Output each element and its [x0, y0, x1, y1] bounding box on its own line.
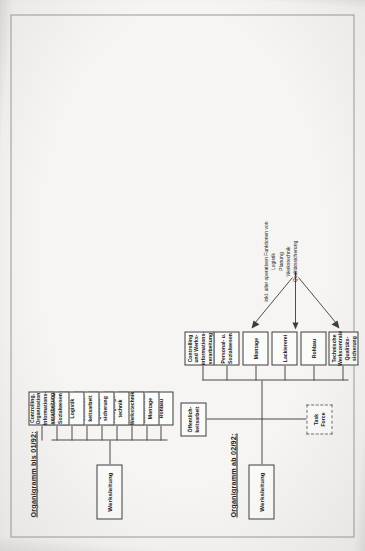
connector-root-chart1 [109, 440, 110, 464]
connector-staff-oeffentlichkeit-chart2 [206, 418, 262, 419]
connector-branch-chart1-5 [101, 425, 102, 440]
connector-branch-chart2-1 [342, 365, 343, 380]
connector-branch-chart1-7 [71, 425, 72, 440]
connector-branch-chart2-2 [313, 365, 314, 380]
chart2-title: Organigramm ab 02/92: [228, 433, 237, 517]
scanned-page: Organigramm bis 01/92: Werksleitung Rohb… [0, 0, 365, 551]
annotation-text: inkl. aller operativen Funktionen von Lo… [262, 215, 298, 307]
connector-spine-chart2 [202, 379, 348, 380]
node-controlling-chart1[interactable]: Controlling, Organisation Informations- … [28, 391, 54, 425]
connector-branch-chart2-5 [226, 365, 227, 380]
connector-root-chart2 [261, 380, 262, 464]
node-personal-sozialwesen-chart2[interactable]: Personal- u. Sozialwesen [213, 331, 239, 365]
node-technische-werkszentrale-chart2[interactable]: Technische Werkszentrale Qualitäts- sich… [328, 331, 358, 365]
connector-branch-chart1-8 [56, 425, 57, 440]
node-rohbau-chart2[interactable]: Rohbau [300, 331, 326, 365]
connector-branch-chart1-2 [146, 425, 147, 440]
connector-branch-chart1-1 [160, 425, 161, 440]
connector-branch-chart2-6 [202, 365, 203, 380]
connector-branch-chart1-6 [86, 425, 87, 440]
node-montage-chart2[interactable]: Montage [242, 331, 268, 365]
node-controlling-chart2[interactable]: Controlling und Werks- informations- ver… [184, 331, 214, 365]
diagram-sheet: Organigramm bis 01/92: Werksleitung Rohb… [0, 0, 365, 551]
connector-branch-chart1-3 [131, 425, 132, 440]
node-oeffentlichkeitsarbeit-chart2[interactable]: Öffentlich- keitsarbeit [180, 402, 206, 436]
node-task-force-chart2[interactable]: Task Force [306, 404, 332, 434]
node-werksleitung-chart1[interactable]: Werksleitung [96, 464, 122, 519]
connector-spine-chart1 [51, 439, 167, 440]
node-werksleitung-chart2[interactable]: Werksleitung [248, 464, 274, 519]
connector-branch-chart2-4 [255, 365, 256, 380]
connector-staff-taskforce-chart2 [261, 418, 307, 419]
connector-branch-chart2-3 [284, 365, 285, 380]
connector-branch-chart1-9 [41, 425, 42, 440]
connector-branch-chart1-4 [116, 425, 117, 440]
node-lackiererei-chart2[interactable]: Lackiererei [271, 331, 297, 365]
chart1-title: Organigramm bis 01/92: [28, 431, 37, 517]
